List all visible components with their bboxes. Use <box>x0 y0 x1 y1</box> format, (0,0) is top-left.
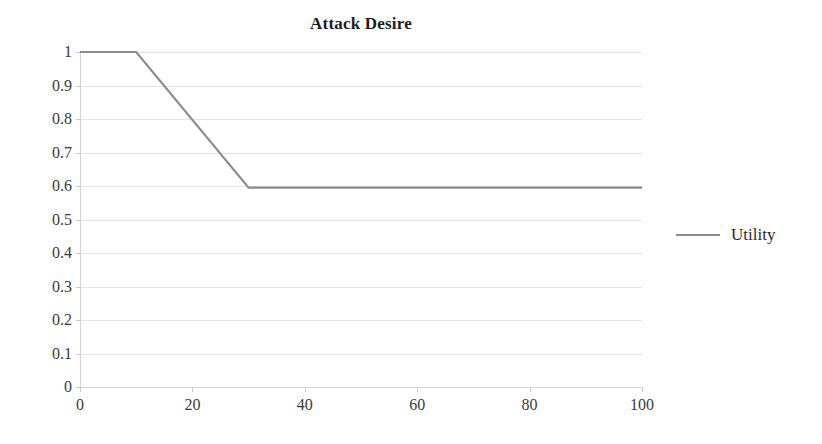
y-tick-label: 0.3 <box>0 279 72 295</box>
y-tick-label: 0 <box>0 379 72 395</box>
y-tick-label: 0.6 <box>0 178 72 194</box>
x-tick-label: 60 <box>409 396 425 414</box>
y-tick-label: 0.8 <box>0 111 72 127</box>
y-tick-label: 0.4 <box>0 245 72 261</box>
y-tick-label: 1 <box>0 44 72 60</box>
x-tick-label: 40 <box>297 396 313 414</box>
tick-marks <box>76 53 643 393</box>
legend-line-swatch-icon <box>676 234 720 236</box>
gridlines <box>80 53 642 388</box>
y-tick-label: 0.2 <box>0 312 72 328</box>
plot-svg <box>80 52 642 387</box>
x-tick-label: 0 <box>76 396 84 414</box>
x-tick-label: 100 <box>630 396 654 414</box>
legend-label-utility: Utility <box>731 226 775 244</box>
y-tick-label: 0.5 <box>0 212 72 228</box>
chart-legend: Utility <box>676 226 775 244</box>
y-tick-label: 0.7 <box>0 145 72 161</box>
chart-title: Attack Desire <box>80 14 642 34</box>
plot-area <box>80 52 642 387</box>
y-tick-label: 0.1 <box>0 346 72 362</box>
x-tick-label: 20 <box>184 396 200 414</box>
chart-container: Attack Desire 00.10.20.30.40.50.60.70.80… <box>0 0 822 444</box>
y-tick-label: 0.9 <box>0 78 72 94</box>
y-axis: 00.10.20.30.40.50.60.70.80.91 <box>0 0 72 444</box>
x-axis: 020406080100 <box>80 396 642 420</box>
x-tick-label: 80 <box>522 396 538 414</box>
